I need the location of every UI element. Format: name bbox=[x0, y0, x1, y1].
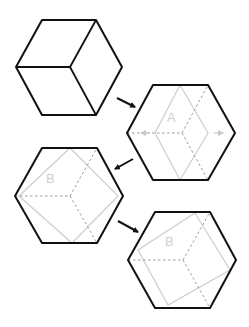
diagram-canvas: A B B bbox=[0, 0, 249, 327]
label-a: A bbox=[167, 110, 176, 125]
arrow-b1-to-b2 bbox=[118, 221, 138, 232]
arrow-cube-to-a bbox=[117, 98, 135, 107]
arrow-a-to-b1 bbox=[115, 159, 133, 169]
label-b2: B bbox=[165, 234, 174, 249]
cube-panel bbox=[16, 20, 122, 115]
hex-b1-panel: B bbox=[15, 148, 123, 243]
label-b1: B bbox=[46, 171, 55, 186]
hex-a-panel: A bbox=[127, 85, 235, 180]
hex-b2-panel: B bbox=[128, 212, 236, 308]
